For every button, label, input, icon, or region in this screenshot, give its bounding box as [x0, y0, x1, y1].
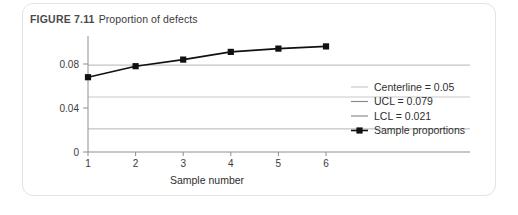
x-tick-label: 2	[133, 158, 139, 169]
data-point-marker	[275, 46, 281, 52]
data-point-marker	[323, 43, 329, 49]
data-point-marker	[228, 49, 234, 55]
legend-swatch-marker	[356, 127, 362, 133]
chart-legend: Centerline = 0.05UCL = 0.079LCL = 0.021S…	[351, 81, 465, 137]
legend-item-label: LCL = 0.021	[374, 110, 431, 122]
data-point-marker	[133, 63, 139, 69]
x-axis-title: Sample number	[170, 174, 245, 186]
series-line	[88, 46, 326, 77]
legend-item-label: UCL = 0.079	[374, 95, 433, 107]
data-point-marker	[85, 74, 91, 80]
control-chart-plot: 123456 00.040.08 Sample number Centerlin…	[0, 0, 518, 215]
x-tick-label: 3	[180, 158, 186, 169]
x-tick-label: 4	[228, 158, 234, 169]
data-point-marker	[180, 57, 186, 63]
x-tick-label: 5	[276, 158, 282, 169]
y-tick-label: 0.04	[60, 103, 80, 114]
y-tick-labels-group: 00.040.08	[60, 59, 80, 158]
y-tick-label: 0.08	[60, 59, 80, 70]
y-tick-label: 0	[73, 147, 79, 158]
x-tick-label: 1	[85, 158, 91, 169]
legend-item-label: Sample proportions	[374, 124, 465, 136]
x-tick-labels-group: 123456	[85, 158, 329, 169]
legend-item-label: Centerline = 0.05	[374, 81, 454, 93]
series-group	[85, 43, 329, 80]
axis-titles-group: Sample number	[170, 174, 245, 186]
x-tick-label: 6	[323, 158, 329, 169]
